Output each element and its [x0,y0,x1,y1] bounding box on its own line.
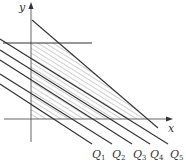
y-axis: y [18,1,34,142]
label-q1: Q1 [92,148,106,162]
x-axis-label: x [168,122,175,135]
level-lines [0,39,168,144]
label-q4: Q4 [150,148,164,162]
x-axis-arrow-icon [166,117,173,122]
label-q5: Q5 [170,148,184,162]
y-axis-label: y [18,1,26,14]
level-line-labels: Q1 Q2 Q3 Q4 Q5 [92,148,184,162]
feasible-region [31,43,147,119]
label-q3: Q3 [133,148,147,162]
y-axis-arrow-icon [29,2,34,9]
label-q2: Q2 [112,148,126,162]
lp-diagram: y x Q1 Q2 Q3 Q4 Q5 [0,0,186,165]
level-line-q5 [0,39,168,144]
